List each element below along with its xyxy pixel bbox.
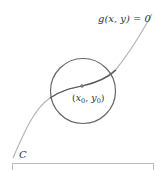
neighborhood-circle <box>51 59 116 124</box>
point-label: (x0, y0) <box>72 92 105 105</box>
curve-name-label: C <box>19 149 27 160</box>
curve-segment-in-disk <box>50 70 116 98</box>
curve-equation-label: g(x, y) = 0 <box>98 13 152 24</box>
diagram-canvas: (x0, y0) g(x, y) = 0 C <box>0 0 163 170</box>
point-x0-y0 <box>80 84 84 88</box>
caption-box <box>13 164 154 171</box>
